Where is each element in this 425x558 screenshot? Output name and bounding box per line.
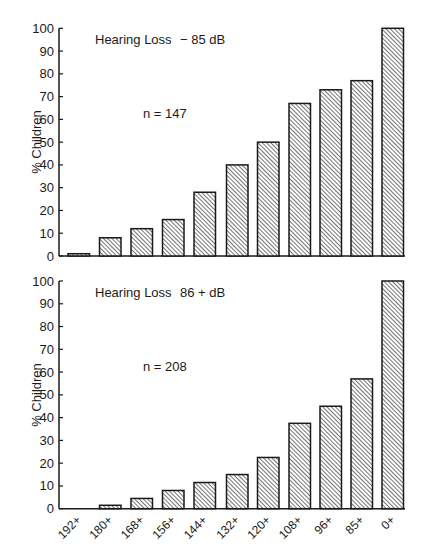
x-tick-label: 132+	[213, 513, 242, 542]
x-tick-label: 85+	[343, 513, 367, 537]
y-tick-label: 80	[40, 66, 54, 81]
hearing-loss-bar-charts: 0102030405060708090100 Hearing Loss − 85…	[0, 0, 425, 558]
y-tick-label: 10	[40, 478, 54, 493]
x-tick-label: 168+	[118, 513, 147, 542]
bar-144plus	[194, 192, 216, 256]
sample-size: n = 147	[143, 106, 187, 121]
bar-144plus	[194, 483, 216, 509]
x-tick-label: 192+	[55, 513, 84, 542]
x-tick-label: 96+	[312, 513, 336, 537]
bars	[68, 28, 404, 256]
panel-range: − 85 dB	[180, 32, 225, 47]
x-tick-label: 120+	[244, 513, 273, 542]
y-tick-label: 90	[40, 44, 54, 59]
bar-96plus	[320, 90, 342, 256]
x-tick-label: 0+	[378, 513, 398, 533]
y-tick-label: 30	[40, 180, 54, 195]
bar-0plus	[382, 281, 404, 509]
sample-size: n = 208	[143, 359, 187, 374]
y-tick-label: 10	[40, 226, 54, 241]
y-tick-label: 90	[40, 296, 54, 311]
y-tick-label: 80	[40, 319, 54, 334]
x-tick-label: 144+	[181, 513, 210, 542]
y-axis-label: % Children	[29, 363, 44, 427]
bar-156plus	[163, 490, 185, 508]
y-tick-label: 0	[47, 249, 54, 264]
y-axis-label: % Children	[29, 110, 44, 174]
y-axis: 0102030405060708090100	[32, 274, 405, 517]
y-axis: 0102030405060708090100	[32, 21, 405, 264]
y-tick-label: 100	[32, 274, 54, 289]
panel-range: 86 + dB	[180, 285, 225, 300]
bar-108plus	[289, 103, 311, 256]
bar-132plus	[227, 475, 249, 509]
bar-168plus	[131, 498, 153, 508]
bar-0plus	[382, 28, 404, 256]
y-tick-label: 30	[40, 433, 54, 448]
bars	[100, 281, 404, 509]
y-tick-label: 100	[32, 21, 54, 36]
bar-108plus	[289, 423, 311, 508]
y-tick-label: 0	[47, 501, 54, 516]
bar-180plus	[100, 238, 122, 256]
x-axis-ticks: 192+180+168+156+144+132+120+108+96+85+0+	[55, 513, 398, 542]
bar-168plus	[131, 229, 153, 256]
y-tick-label: 20	[40, 456, 54, 471]
bar-85plus	[351, 379, 373, 509]
y-tick-label: 70	[40, 342, 54, 357]
panel-title: Hearing Loss	[95, 285, 172, 300]
bar-132plus	[227, 165, 249, 256]
x-tick-label: 180+	[86, 513, 115, 542]
x-tick-label: 108+	[276, 513, 305, 542]
bar-180plus	[100, 505, 122, 508]
bar-120plus	[258, 142, 280, 256]
chart-panel-bottom: 0102030405060708090100 192+180+168+156+1…	[29, 274, 405, 542]
bar-156plus	[163, 220, 185, 256]
y-tick-label: 70	[40, 89, 54, 104]
bar-85plus	[351, 81, 373, 256]
bar-96plus	[320, 406, 342, 508]
y-tick-label: 20	[40, 203, 54, 218]
panel-title: Hearing Loss	[95, 32, 172, 47]
bar-120plus	[258, 457, 280, 508]
bar-192plus	[68, 254, 90, 256]
chart-panel-top: 0102030405060708090100 Hearing Loss − 85…	[29, 21, 405, 264]
x-tick-label: 156+	[149, 513, 178, 542]
